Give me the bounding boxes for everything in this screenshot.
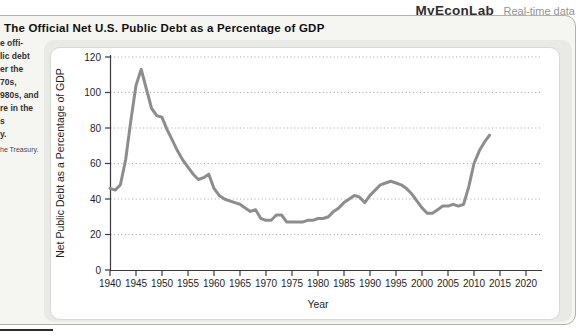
textbook-page: MyEconLab Real-time data The Official Ne… xyxy=(0,0,582,335)
debt-line-chart: 0204060801001201940194519501955196019651… xyxy=(50,47,558,318)
svg-text:2010: 2010 xyxy=(463,278,486,289)
svg-text:120: 120 xyxy=(84,52,101,63)
svg-text:1970: 1970 xyxy=(255,278,278,289)
svg-text:1965: 1965 xyxy=(229,278,252,289)
svg-text:1950: 1950 xyxy=(151,278,174,289)
svg-text:1955: 1955 xyxy=(177,278,200,289)
svg-text:2015: 2015 xyxy=(489,278,512,289)
svg-text:1980: 1980 xyxy=(307,278,330,289)
svg-text:1985: 1985 xyxy=(333,278,356,289)
svg-text:1990: 1990 xyxy=(359,278,382,289)
svg-text:1945: 1945 xyxy=(125,278,148,289)
svg-text:2000: 2000 xyxy=(411,278,434,289)
svg-text:Year: Year xyxy=(307,298,329,310)
svg-text:1975: 1975 xyxy=(281,278,304,289)
figure-title: The Official Net U.S. Public Debt as a P… xyxy=(4,22,325,34)
svg-text:2020: 2020 xyxy=(515,278,538,289)
svg-text:1940: 1940 xyxy=(99,278,122,289)
svg-text:80: 80 xyxy=(90,123,102,134)
svg-text:1960: 1960 xyxy=(203,278,226,289)
svg-text:20: 20 xyxy=(90,229,102,240)
svg-text:0: 0 xyxy=(95,265,101,276)
svg-text:40: 40 xyxy=(90,194,102,205)
svg-text:1995: 1995 xyxy=(385,278,408,289)
svg-text:2005: 2005 xyxy=(437,278,460,289)
page-bottom-rule xyxy=(0,329,53,331)
svg-text:60: 60 xyxy=(90,158,102,169)
figure-source-line: he Treasury. xyxy=(0,146,38,153)
svg-text:100: 100 xyxy=(84,87,101,98)
svg-text:Net Public Debt as a Percentag: Net Public Debt as a Percentage of GDP xyxy=(54,68,66,258)
